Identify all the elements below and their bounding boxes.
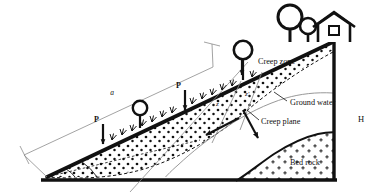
height-label: H [358, 114, 364, 124]
bed-rock-label: Bed rock [290, 158, 321, 167]
creep-plane-label: Creep plane [261, 117, 301, 126]
load-label-lower: P [94, 115, 99, 124]
house-window [329, 26, 339, 35]
creep-zone-label: Creep zone [258, 57, 295, 66]
depth-z-label: z [215, 100, 219, 108]
figure-canvas: a z z' P P P [0, 0, 375, 192]
slope-length-label: a [110, 88, 114, 97]
slope-creep-diagram: a z z' P P P [0, 0, 375, 192]
depth-z-prime-label: z' [244, 90, 250, 98]
ground-water-label: Ground water [290, 98, 336, 107]
load-label-middle: P [176, 81, 181, 90]
